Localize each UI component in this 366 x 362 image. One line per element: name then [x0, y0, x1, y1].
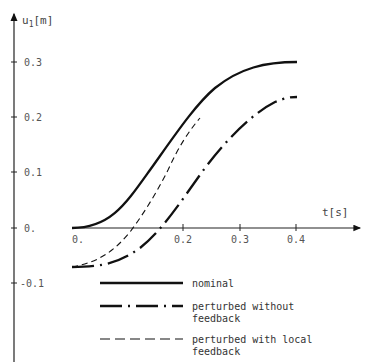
legend-label-perturbed-without-feedback: perturbed without — [192, 301, 294, 312]
legend-label-nominal: nominal — [192, 278, 234, 289]
y-ticks: 0.3 0.2 0.1 0. -0.1 — [11, 57, 44, 289]
svg-text:0.3: 0.3 — [24, 57, 42, 68]
x-axis-label: t[s] — [322, 206, 349, 219]
svg-text:0.: 0. — [24, 223, 36, 234]
legend: nominal perturbed without feedback pertu… — [100, 278, 312, 357]
svg-text:0.4: 0.4 — [287, 234, 305, 245]
svg-text:0.1: 0.1 — [24, 167, 42, 178]
svg-text:0.3: 0.3 — [231, 234, 249, 245]
y-axis-label: u1[m] — [22, 14, 53, 29]
legend-label-perturbed-with-local-feedback: perturbed with local — [192, 334, 312, 345]
series-nominal — [72, 62, 297, 228]
chart: u1[m] t[s] 0.3 0.2 0.1 0. -0.1 0. 0.2 0.… — [0, 0, 366, 362]
legend-label-perturbed-without-feedback-2: feedback — [192, 313, 240, 324]
svg-text:0.2: 0.2 — [24, 112, 42, 123]
svg-text:0.2: 0.2 — [174, 234, 192, 245]
legend-label-perturbed-with-local-feedback-2: feedback — [192, 346, 240, 357]
svg-text:-0.1: -0.1 — [20, 278, 44, 289]
svg-text:0.: 0. — [72, 234, 84, 245]
x-ticks: 0. 0.2 0.3 0.4 — [72, 224, 305, 245]
